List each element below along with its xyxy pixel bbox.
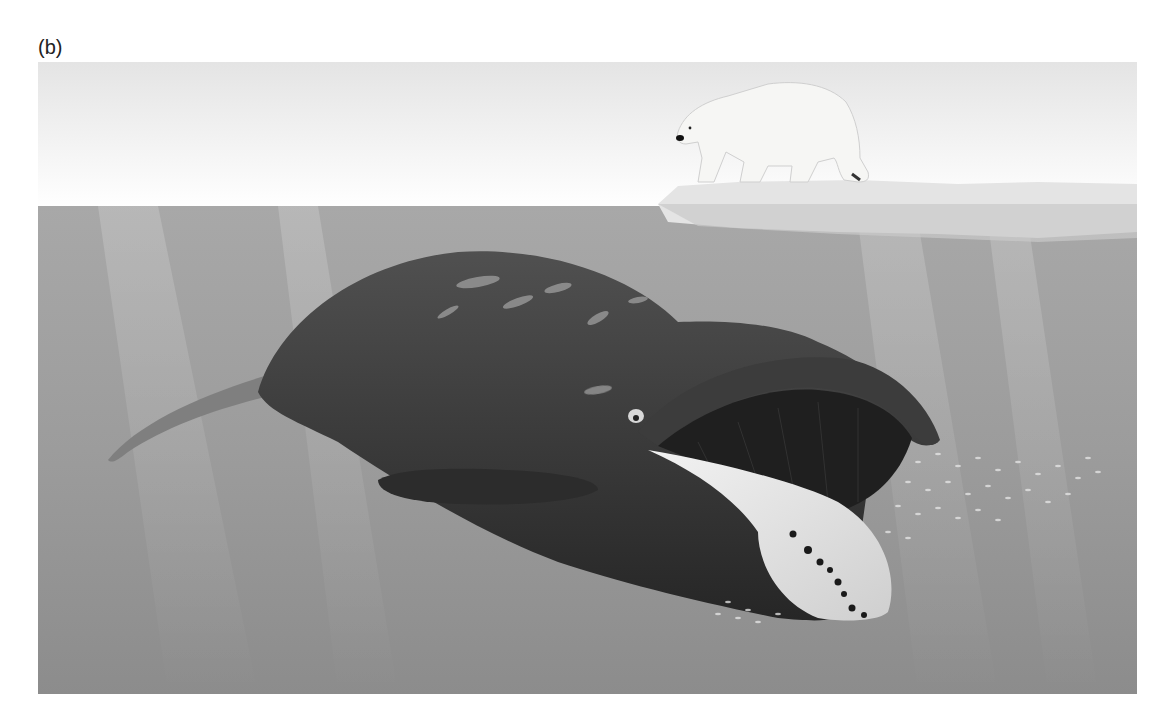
whale-illustration	[38, 62, 1137, 694]
panel-label: (b)	[38, 36, 62, 59]
